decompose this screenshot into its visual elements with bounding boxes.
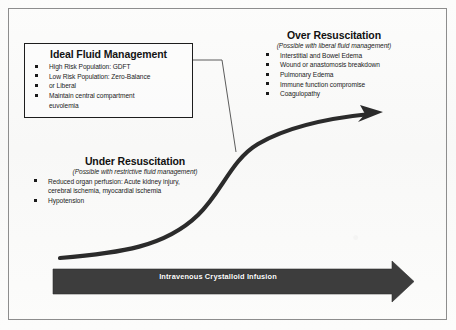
fluid-management-figure: Ideal Fluid Management High Risk Populat… xyxy=(0,0,456,330)
list-item-label: Wound or anastomosis breakdown xyxy=(280,61,380,68)
list-item-label: Low Risk Population: Zero-Balance xyxy=(49,73,150,80)
list-item: Reduced organ perfusion: Acute kidney in… xyxy=(32,177,198,196)
list-item-label: Immune function compromise xyxy=(280,81,365,88)
list-item: High Risk Population: GDFT xyxy=(33,62,188,71)
over-resuscitation-block: Over Resuscitation (Possible with libera… xyxy=(246,29,446,99)
list-item-label: High Risk Population: GDFT xyxy=(49,63,131,70)
list-item-label: Pulmonary Edema xyxy=(280,71,334,78)
list-item: Pulmonary Edema xyxy=(264,70,442,79)
under-resuscitation-block: Under Resuscitation (Possible with restr… xyxy=(22,155,234,206)
list-item-label: or Liberal xyxy=(49,82,76,89)
under-resuscitation-list: Reduced organ perfusion: Acute kidney in… xyxy=(22,177,234,206)
list-item-label: Interstitial and Bowel Edema xyxy=(280,52,362,59)
list-item-label: Hypotension xyxy=(48,197,84,204)
list-item: Immune function compromise xyxy=(264,80,442,89)
list-item: Maintain central compartment xyxy=(33,91,188,100)
ideal-fluid-management-title: Ideal Fluid Management xyxy=(25,48,192,60)
over-resuscitation-heading: Over Resuscitation xyxy=(246,29,446,41)
list-item-label: Coagulopathy xyxy=(280,90,320,97)
bullet-icon xyxy=(266,53,269,56)
ideal-fluid-management-list: High Risk Population: GDFT Low Risk Popu… xyxy=(25,62,192,110)
list-item-label: Reduced organ perfusion: Acute kidney in… xyxy=(48,178,180,194)
bullet-icon xyxy=(266,92,269,95)
over-resuscitation-list: Interstitial and Bowel Edema Wound or an… xyxy=(246,51,446,99)
bullet-icon xyxy=(266,82,269,85)
list-item: Low Risk Population: Zero-Balance xyxy=(33,72,188,81)
under-resuscitation-heading: Under Resuscitation xyxy=(22,155,234,167)
list-item: or Liberal xyxy=(33,81,188,90)
over-resuscitation-subtitle: (Possible with liberal fluid management) xyxy=(246,42,446,49)
bullet-icon xyxy=(35,65,38,68)
bullet-icon xyxy=(34,179,37,182)
bullet-icon xyxy=(35,74,38,77)
list-item: Wound or anastomosis breakdown xyxy=(264,60,442,69)
list-item: Coagulopathy xyxy=(264,89,442,98)
ideal-fluid-management-box: Ideal Fluid Management High Risk Populat… xyxy=(24,43,193,118)
bullet-icon xyxy=(35,94,38,97)
bullet-icon xyxy=(34,199,37,202)
list-item-continuation: euvolemia xyxy=(33,101,188,110)
bullet-icon xyxy=(266,63,269,66)
list-item: Hypotension xyxy=(32,196,230,205)
bullet-icon xyxy=(35,84,38,87)
list-item-label: Maintain central compartment xyxy=(49,92,134,99)
infusion-arrow-label: Intravenous Crystalloid Infusion xyxy=(53,272,383,281)
bullet-icon xyxy=(266,73,269,76)
list-item-label: euvolemia xyxy=(49,102,79,109)
under-resuscitation-subtitle: (Possible with restrictive fluid managem… xyxy=(22,168,234,175)
list-item: Interstitial and Bowel Edema xyxy=(264,51,442,60)
